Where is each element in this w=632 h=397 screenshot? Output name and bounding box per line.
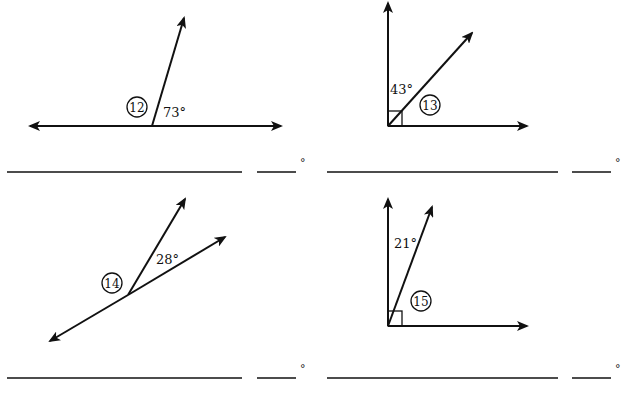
- given-angle-label: 73°: [163, 105, 186, 120]
- given-angle-label: 43°: [390, 82, 413, 97]
- upper-ray: [128, 199, 185, 295]
- problem-12: 12 73° °: [7, 18, 306, 172]
- problem-number: 12: [129, 101, 144, 115]
- given-angle-label: 28°: [156, 252, 179, 267]
- problem-number: 14: [104, 277, 120, 291]
- problem-15: 21° 15 °: [327, 199, 621, 378]
- problem-13: 43° 13 °: [327, 3, 621, 172]
- problem-number: 15: [413, 295, 428, 309]
- degree-symbol: °: [615, 156, 621, 169]
- problem-14: 14 28° °: [7, 199, 306, 378]
- given-angle-label: 21°: [394, 236, 417, 251]
- degree-symbol: °: [615, 362, 621, 375]
- problem-number: 13: [422, 99, 437, 113]
- lower-left-ray: [50, 295, 128, 341]
- worksheet-canvas: 12 73° ° 43° 13 ° 14 28° ° 21°: [0, 0, 632, 397]
- degree-symbol: °: [300, 156, 306, 169]
- degree-symbol: °: [300, 362, 306, 375]
